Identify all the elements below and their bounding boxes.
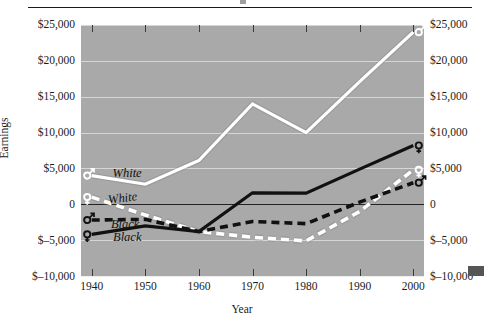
x-axis-title: Year [0, 303, 484, 315]
y-tick-left-6: $–5,000 [38, 235, 75, 247]
plot-area: WhiteWhiteBlackBlack [81, 25, 424, 276]
y-tick-left-2: $15,000 [38, 91, 75, 103]
figure-root: $25,000 $20,000 $15,000 $10,000 $5,000 0… [0, 0, 484, 326]
y-tick-right-2: $15,000 [430, 91, 467, 103]
inline-label-black-3: Black [113, 231, 141, 244]
y-tick-left-7: $–10,000 [32, 271, 75, 283]
female-icon [84, 194, 90, 205]
y-axis-right-labels: $25,000 $20,000 $15,000 $10,000 $5,000 0… [430, 25, 484, 276]
inline-label-black-2: Black [111, 218, 139, 231]
y-tick-right-7: $–10,000 [430, 271, 473, 283]
male-icon [416, 25, 426, 35]
top-horizontal-rule [28, 7, 472, 8]
female-icon [84, 231, 90, 242]
y-axis-title: Earnings [0, 118, 10, 159]
y-tick-right-4: $5,000 [430, 163, 462, 175]
x-tick-label-1940: 1940 [80, 281, 103, 293]
x-tick-label-1950: 1950 [134, 281, 157, 293]
x-tick-label-1970: 1970 [241, 281, 264, 293]
y-tick-left-3: $10,000 [38, 127, 75, 139]
x-tick-label-1990: 1990 [348, 281, 371, 293]
y-tick-right-6: $–5,000 [430, 235, 467, 247]
cropped-title-fragment [240, 0, 246, 4]
series-line-white-men [92, 32, 414, 184]
x-tick-label-1960: 1960 [187, 281, 210, 293]
y-axis-left-labels: $25,000 $20,000 $15,000 $10,000 $5,000 0… [0, 25, 75, 276]
gridline--10000 [81, 276, 424, 277]
y-tick-right-0: $25,000 [430, 19, 467, 31]
female-icon [416, 142, 422, 153]
female-icon [416, 167, 422, 178]
x-tick-label-2000: 2000 [402, 281, 425, 293]
y-tick-right-1: $20,000 [430, 55, 467, 67]
y-tick-right-5: 0 [430, 199, 436, 211]
y-tick-right-3: $10,000 [430, 127, 467, 139]
series-halo-0 [92, 32, 414, 184]
y-tick-left-4: $5,000 [43, 163, 75, 175]
inline-label-white-1: White [107, 190, 137, 206]
male-icon [416, 176, 426, 186]
scan-artifact [468, 266, 484, 276]
y-tick-left-5: 0 [69, 199, 75, 211]
inline-label-white-0: White [113, 167, 142, 180]
x-tick-label-1980: 1980 [295, 281, 318, 293]
y-tick-left-0: $25,000 [38, 19, 75, 31]
y-tick-left-1: $20,000 [38, 55, 75, 67]
